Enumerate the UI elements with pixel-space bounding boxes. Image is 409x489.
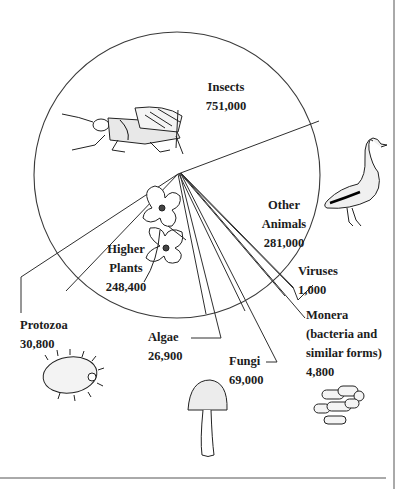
label-higher-plants: Higher Plants 248,400: [96, 240, 156, 297]
label-monera-line2: (bacteria and: [306, 325, 382, 344]
label-higher-plants-line1: Higher: [96, 240, 156, 259]
label-other-animals: Other Animals 281,000: [252, 196, 316, 253]
label-other-animals-line2: Animals: [252, 215, 316, 234]
label-insects: Insects 751,000: [196, 78, 256, 116]
label-protozoa-value: 30,800: [20, 335, 68, 354]
label-fungi: Fungi 69,000: [229, 352, 263, 390]
label-insects-value: 751,000: [196, 97, 256, 116]
label-other-animals-line1: Other: [252, 196, 316, 215]
label-fungi-value: 69,000: [229, 371, 263, 390]
goose-icon: [325, 138, 387, 226]
label-viruses-value: 1,000: [298, 281, 338, 300]
label-monera: Monera (bacteria and similar forms) 4,80…: [306, 306, 382, 382]
label-monera-value: 4,800: [306, 363, 382, 382]
label-insects-name: Insects: [196, 78, 256, 97]
label-higher-plants-value: 248,400: [96, 278, 156, 297]
label-higher-plants-line2: Plants: [96, 259, 156, 278]
label-protozoa: Protozoa 30,800: [20, 316, 68, 354]
label-monera-line1: Monera: [306, 306, 382, 325]
label-algae-value: 26,900: [148, 347, 182, 366]
label-viruses: Viruses 1,000: [298, 262, 338, 300]
protozoan-icon: [41, 349, 104, 401]
mushroom-icon: [188, 380, 227, 457]
label-monera-line3: similar forms): [306, 344, 382, 363]
bacteria-icon: [314, 386, 364, 424]
grasshopper-icon: [62, 107, 183, 154]
pie-chart: [0, 0, 409, 489]
label-viruses-name: Viruses: [298, 262, 338, 281]
label-protozoa-name: Protozoa: [20, 316, 68, 335]
label-algae: Algae 26,900: [148, 328, 182, 366]
label-algae-name: Algae: [148, 328, 182, 347]
label-other-animals-value: 281,000: [252, 234, 316, 253]
label-fungi-name: Fungi: [229, 352, 263, 371]
